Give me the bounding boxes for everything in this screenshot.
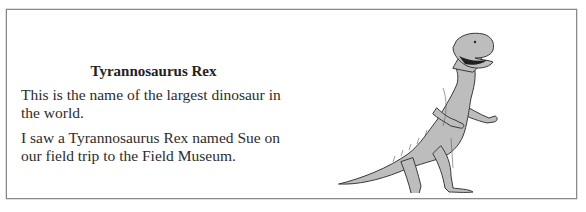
content-card: Tyrannosaurus Rex This is the name of th…	[6, 9, 577, 199]
text-column: Tyrannosaurus Rex This is the name of th…	[21, 62, 286, 172]
card-title: Tyrannosaurus Rex	[21, 62, 286, 80]
paragraph-2: I saw a Tyrannosaurus Rex named Sue on o…	[21, 129, 286, 164]
paragraph-1: This is the name of the largest dinosaur…	[21, 86, 286, 121]
tyrannosaurus-rex-icon	[333, 28, 523, 193]
